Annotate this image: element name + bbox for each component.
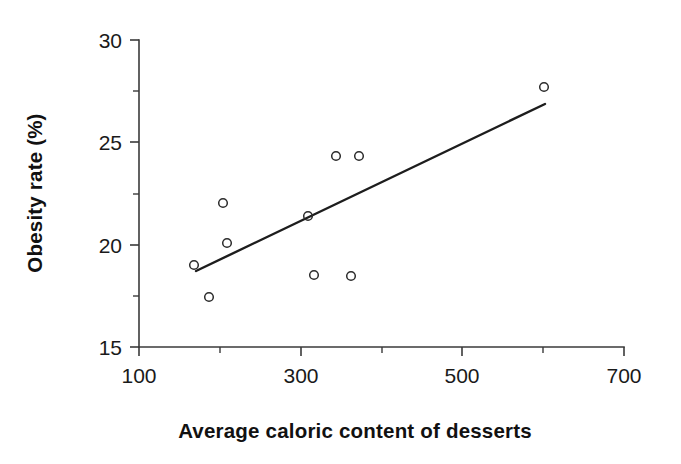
data-point [219, 199, 228, 208]
data-point [347, 272, 356, 281]
x-ticklabel-500: 500 [444, 364, 479, 387]
regression-trendline [196, 104, 545, 271]
plot-canvas: 30 25 20 15 100 300 500 700 Av [0, 0, 681, 464]
y-axis-title: Obesity rate (%) [23, 113, 46, 272]
data-point [332, 152, 341, 161]
scatter-chart-figure: 30 25 20 15 100 300 500 700 Av [0, 0, 681, 464]
y-ticklabel-15: 15 [99, 336, 122, 359]
y-ticklabel-30: 30 [99, 29, 122, 52]
x-ticklabel-100: 100 [121, 364, 156, 387]
x-axis-title: Average caloric content of desserts [178, 419, 532, 442]
data-point [310, 271, 319, 280]
data-point [223, 239, 232, 248]
data-point [190, 261, 199, 270]
x-axis-tick-labels: 100 300 500 700 [121, 364, 641, 387]
y-ticklabel-25: 25 [99, 131, 122, 154]
y-axis-tick-labels: 30 25 20 15 [99, 29, 122, 359]
data-point [355, 152, 364, 161]
data-point [205, 293, 214, 302]
y-ticklabel-20: 20 [99, 234, 122, 257]
data-points [190, 83, 549, 302]
x-ticklabel-300: 300 [283, 364, 318, 387]
x-axis-ticks [139, 347, 624, 356]
data-point [540, 83, 549, 92]
x-ticklabel-700: 700 [606, 364, 641, 387]
y-axis-ticks [130, 40, 139, 347]
